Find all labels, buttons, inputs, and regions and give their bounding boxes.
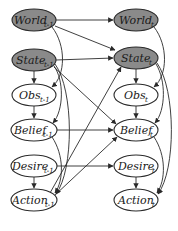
- node-subscript: t: [152, 167, 155, 175]
- node-subscript: t: [149, 59, 152, 67]
- node-label: State: [16, 54, 46, 67]
- node-subscript: t-1: [40, 96, 50, 104]
- edge-world-prev-state-t: [55, 26, 115, 50]
- node-world-t: World t: [114, 9, 158, 31]
- node-state-prev: State t-1: [12, 49, 56, 71]
- edge-action-prev-belief-t: [54, 137, 117, 196]
- node-label: Obs: [19, 89, 41, 102]
- node-label: Belief: [119, 124, 154, 137]
- node-action-prev: Action t-1: [11, 189, 57, 211]
- node-subscript: t: [151, 21, 154, 29]
- node-subscript: t: [150, 131, 153, 139]
- node-subscript: t: [145, 96, 148, 104]
- edge-state-action-t: [157, 63, 171, 194]
- node-desire-prev: Desire t-1: [11, 155, 57, 177]
- node-subscript: t-1: [44, 61, 54, 69]
- node-desire-t: Desire t: [114, 155, 158, 177]
- dbn-diagram: World t-1 State t-1 Obs t-1 Belief t-1 D…: [0, 0, 178, 231]
- node-action-t: Action t: [114, 189, 158, 211]
- node-obs-prev: Obs t-1: [12, 84, 56, 106]
- node-subscript: t-1: [45, 201, 55, 209]
- node-label: Desire: [117, 160, 155, 173]
- edge-state-state: [56, 58, 113, 60]
- node-label: State: [121, 52, 151, 65]
- edge-state-prev-belief-t: [54, 67, 116, 124]
- node-state-t: State t: [114, 47, 158, 69]
- node-belief-t: Belief t: [114, 119, 158, 141]
- node-obs-t: Obs t: [114, 84, 158, 106]
- node-belief-prev: Belief t-1: [11, 119, 57, 141]
- node-label: Action: [11, 194, 48, 207]
- node-label: World: [119, 14, 152, 27]
- node-label: World: [14, 14, 47, 27]
- node-subscript: t-1: [43, 131, 53, 139]
- node-subscript: t-1: [44, 21, 54, 29]
- node-world-prev: World t-1: [12, 9, 56, 31]
- node-subscript: t-1: [44, 167, 54, 175]
- node-subscript: t: [152, 201, 155, 209]
- node-label: Obs: [124, 89, 146, 102]
- node-label: Action: [117, 194, 154, 207]
